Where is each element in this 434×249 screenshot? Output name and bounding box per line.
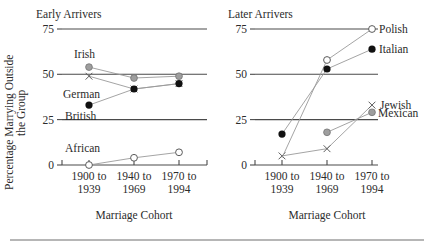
series-polish-line <box>282 29 372 158</box>
panel-title-later: Later Arrivers <box>228 8 293 20</box>
xlabel-right-c2-line1: 1940 to <box>310 170 345 182</box>
ylabel-left-50: 50 <box>43 68 55 80</box>
ylabel-right-50: 50 <box>236 68 248 80</box>
figure-root: Percentage Marrying Outside the Group Ea… <box>0 0 434 249</box>
series-italian-point-2 <box>323 65 330 72</box>
series-label-irish: Irish <box>74 48 95 60</box>
series-mexican: Mexican <box>324 107 419 136</box>
ylabel-left-75: 75 <box>43 23 55 35</box>
ylabel-right-0: 0 <box>241 159 247 171</box>
series-irish-point-2 <box>131 75 138 82</box>
series-label-african: African <box>65 142 100 154</box>
series-irish-point-3 <box>176 73 183 80</box>
series-polish-point-2 <box>324 57 331 64</box>
series-label-polish: Polish <box>379 23 408 35</box>
series-label-italian: Italian <box>379 43 409 55</box>
series-african-point-3 <box>176 149 183 156</box>
x-axis-title-right: Marriage Cohort <box>289 209 367 222</box>
series-label-british: British <box>65 110 97 122</box>
series-italian-point-3 <box>368 46 375 53</box>
xlabel-right-c2-line2: 1969 <box>316 183 339 195</box>
xlabel-right-c1-line2: 1939 <box>271 183 294 195</box>
xlabel-right-c3-line2: 1994 <box>361 183 384 195</box>
chart-canvas: Percentage Marrying Outside the Group Ea… <box>0 0 434 249</box>
series-mexican-point-2 <box>324 129 331 136</box>
series-polish-point-3 <box>369 26 376 33</box>
y-axis-label-line2: the Group <box>15 89 28 136</box>
series-african-point-2 <box>131 154 138 161</box>
series-italian-point-1 <box>278 131 285 138</box>
xlabel-left-c1-line2: 1939 <box>78 183 101 195</box>
xlabel-left-c2-line1: 1940 to <box>117 170 152 182</box>
y-axis-label: Percentage Marrying Outside the Group <box>3 55 28 190</box>
series-label-mexican: Mexican <box>378 107 418 119</box>
panel-later-arrivers: Later Arrivers 75 50 25 0 1900 to 1939 1… <box>228 8 418 222</box>
panel-title-early: Early Arrivers <box>36 8 102 21</box>
ylabel-left-0: 0 <box>48 159 54 171</box>
xlabel-left-c1-line1: 1900 to <box>72 170 107 182</box>
series-african-point-1 <box>86 162 93 169</box>
series-british-point-3 <box>175 80 182 87</box>
ylabel-right-75: 75 <box>236 23 248 35</box>
series-mexican-line <box>327 112 372 132</box>
xlabel-left-c3-line2: 1994 <box>168 183 191 195</box>
x-axis-title-left: Marriage Cohort <box>96 209 174 222</box>
ylabel-right-25: 25 <box>236 114 248 126</box>
xlabel-left-c2-line2: 1969 <box>123 183 146 195</box>
xlabel-right-c3-line1: 1970 to <box>355 170 390 182</box>
series-label-german: German <box>63 88 100 100</box>
series-british-point-2 <box>130 85 137 92</box>
xlabel-right-c1-line1: 1900 to <box>265 170 300 182</box>
xlabel-left-c3-line1: 1970 to <box>162 170 197 182</box>
series-british-point-1 <box>85 102 92 109</box>
series-mexican-point-3 <box>369 109 376 116</box>
series-african: African <box>65 142 182 168</box>
ylabel-left-25: 25 <box>43 114 55 126</box>
series-jewish-point-3 <box>369 102 376 109</box>
panel-early-arrivers: Early Arrivers 75 50 25 0 1900 to <box>36 8 207 222</box>
series-irish-point-1 <box>86 64 93 71</box>
